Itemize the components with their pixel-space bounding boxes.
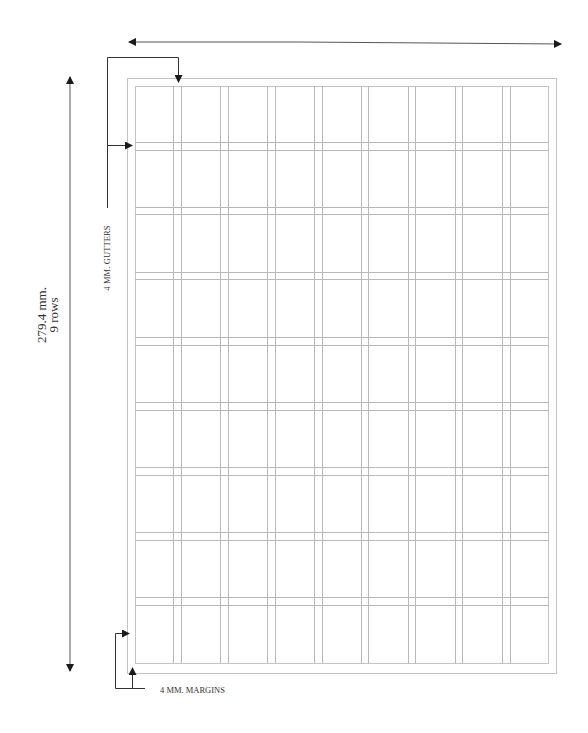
margin-border: [136, 87, 549, 664]
grid-columns: [174, 86, 511, 664]
gutter-annotation-label: 4 MM. GUTTERS: [102, 218, 112, 298]
width-dimension-arrow: [129, 42, 561, 44]
rows-count-text: 9 rows: [48, 275, 60, 355]
page-border: [128, 79, 557, 674]
gutter-callout-arrows: [108, 58, 179, 209]
margin-annotation-label: 4 MM. MARGINS: [160, 685, 225, 695]
grid-diagram: [0, 0, 588, 733]
margin-callout-arrows: [116, 634, 146, 689]
grid-rows: [135, 143, 549, 606]
height-dimension-label: 279.4 mm. 9 rows: [36, 275, 60, 355]
